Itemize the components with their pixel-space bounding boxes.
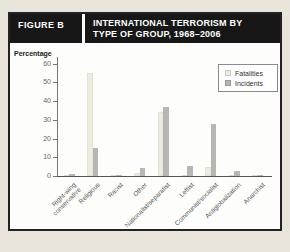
legend: FatalitiesIncidents <box>218 64 278 92</box>
y-tick-label: 60 <box>31 60 51 68</box>
bar-chart: Percentage FatalitiesIncidents 010203040… <box>10 43 280 229</box>
figure-title-line1: INTERNATIONAL TERRORISM BY <box>93 18 280 29</box>
y-tick-label: 20 <box>31 135 51 143</box>
bar-incidents-6 <box>211 124 217 176</box>
y-tick-label: 0 <box>31 172 51 180</box>
bar-incidents-4 <box>163 107 169 176</box>
figure-header: FIGURE B INTERNATIONAL TERRORISM BY TYPE… <box>10 14 280 43</box>
y-tick-mark <box>53 64 57 65</box>
y-tick-mark <box>53 157 57 158</box>
legend-swatch-icon <box>225 70 231 76</box>
y-tick-label: 30 <box>31 116 51 124</box>
legend-label: Incidents <box>235 80 263 87</box>
y-tick-mark <box>53 176 57 177</box>
bar-incidents-8 <box>258 175 264 176</box>
bar-incidents-0 <box>69 174 75 176</box>
y-tick-label: 10 <box>31 153 51 161</box>
y-tick-label: 50 <box>31 78 51 86</box>
legend-entry: Fatalities <box>225 68 277 78</box>
y-tick-mark <box>53 139 57 140</box>
y-axis-title: Percentage <box>14 50 52 57</box>
bar-incidents-1 <box>93 148 99 176</box>
y-tick-mark <box>53 82 57 83</box>
bar-incidents-7 <box>234 171 240 176</box>
legend-entry: Incidents <box>225 78 277 88</box>
y-tick-label: 40 <box>31 97 51 105</box>
y-tick-mark <box>53 120 57 121</box>
figure-title: INTERNATIONAL TERRORISM BY TYPE OF GROUP… <box>85 14 280 43</box>
x-axis-line <box>57 176 272 177</box>
figure-label: FIGURE B <box>10 14 82 43</box>
bar-incidents-2 <box>116 175 122 176</box>
y-axis-line <box>57 57 58 176</box>
legend-label: Fatalities <box>235 70 263 77</box>
y-tick-mark <box>53 101 57 102</box>
bar-incidents-5 <box>187 166 193 176</box>
bar-incidents-3 <box>140 168 146 176</box>
legend-swatch-icon <box>225 80 231 86</box>
figure-panel: FIGURE B INTERNATIONAL TERRORISM BY TYPE… <box>8 12 282 231</box>
figure-title-line2: TYPE OF GROUP, 1968–2006 <box>93 29 280 40</box>
